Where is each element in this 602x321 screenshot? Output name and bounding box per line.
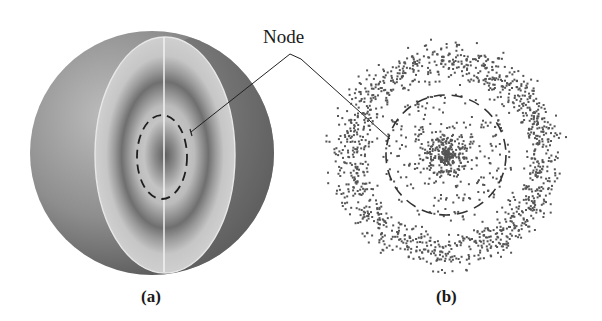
panel-label-a: (a): [141, 287, 161, 307]
cut-face: [95, 37, 235, 273]
panel-a-sphere: [30, 31, 277, 275]
orbital-figure: [0, 0, 602, 321]
panel-label-b: (b): [436, 287, 457, 307]
panel-b-dot-density: [325, 39, 567, 274]
node-annotation: Node: [263, 26, 304, 48]
